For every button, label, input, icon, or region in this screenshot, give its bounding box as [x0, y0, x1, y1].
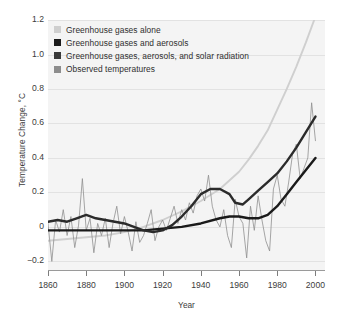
legend-label: Observed temperatures [66, 64, 155, 74]
y-tick-label: 0.8 [0, 83, 44, 93]
legend-swatch-icon [54, 26, 61, 33]
y-tick-label: 0.2 [0, 186, 44, 196]
x-tick-mark [86, 271, 87, 276]
x-tick-mark [163, 271, 164, 276]
x-tick-mark [201, 271, 202, 276]
legend-label: Greenhouse gases alone [66, 25, 161, 35]
legend-swatch-icon [54, 66, 61, 73]
y-tick-label: 1.2 [0, 14, 44, 24]
y-tick-label: 0.4 [0, 152, 44, 162]
y-tick-label: 0 [0, 221, 44, 231]
legend-item: Greenhouse gases alone [54, 23, 249, 36]
x-tick-label: 1880 [66, 280, 106, 290]
x-tick-label: 1940 [181, 280, 221, 290]
legend-item: Observed temperatures [54, 63, 249, 76]
x-axis-title: Year [48, 300, 325, 310]
y-tick-label: −0.2 [0, 255, 44, 265]
x-tick-label: 1920 [143, 280, 183, 290]
x-tick-label: 2000 [295, 280, 335, 290]
x-tick-label: 1900 [104, 280, 144, 290]
x-tick-label: 1860 [28, 280, 68, 290]
x-tick-label: 1980 [257, 280, 297, 290]
x-axis-line [48, 270, 325, 271]
legend-swatch-icon [54, 39, 61, 46]
y-tick-label: 1.0 [0, 49, 44, 59]
x-tick-label: 1960 [219, 280, 259, 290]
series-line [48, 158, 315, 230]
series-line [48, 117, 315, 233]
x-tick-mark [124, 271, 125, 276]
temperature-change-chart: Temperature Change, °C −0.200.20.40.60.8… [0, 0, 339, 320]
x-tick-mark [48, 271, 49, 276]
legend-swatch-icon [54, 52, 61, 59]
legend-label: Greenhouse gases and aerosols [66, 38, 189, 48]
x-tick-mark [277, 271, 278, 276]
legend-item: Greenhouse gases and aerosols [54, 36, 249, 49]
x-tick-mark [315, 271, 316, 276]
x-tick-mark [239, 271, 240, 276]
chart-legend: Greenhouse gases aloneGreenhouse gases a… [54, 23, 249, 76]
legend-item: Greenhouse gases, aerosols, and solar ra… [54, 49, 249, 62]
legend-label: Greenhouse gases, aerosols, and solar ra… [66, 51, 249, 61]
y-tick-label: 0.6 [0, 117, 44, 127]
